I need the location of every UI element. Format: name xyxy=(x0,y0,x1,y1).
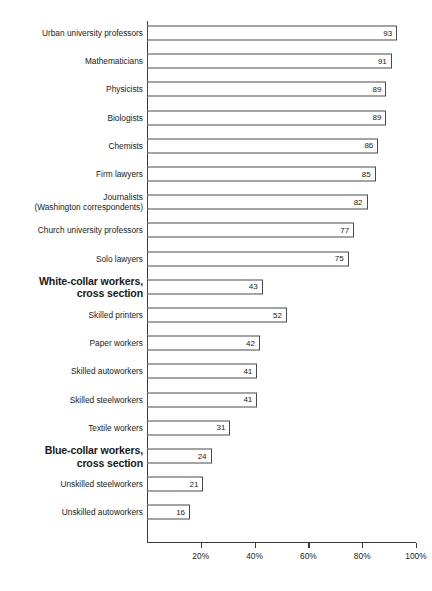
category-label-line1: Unskilled steelworkers xyxy=(60,479,143,489)
bar-row: Chemists86 xyxy=(0,137,432,154)
bar: 75 xyxy=(147,251,349,266)
bar-row: Firm lawyers85 xyxy=(0,166,432,183)
bar: 42 xyxy=(147,336,260,351)
bar: 24 xyxy=(147,449,212,464)
category-label-line1: Blue-collar workers, xyxy=(45,444,143,456)
bar: 86 xyxy=(147,138,378,153)
bar: 89 xyxy=(147,110,386,125)
bar: 91 xyxy=(147,54,392,69)
category-label: Urban university professors xyxy=(42,28,147,38)
category-label: Unskilled autoworkers xyxy=(62,507,147,517)
bar-row: Textile workers31 xyxy=(0,419,432,436)
category-label: Physicists xyxy=(106,84,147,94)
category-label: Mathematicians xyxy=(85,56,147,66)
category-label: Solo lawyers xyxy=(96,254,147,264)
bar-value-label: 16 xyxy=(176,508,185,517)
x-axis-line xyxy=(147,542,416,543)
bar-value-label: 89 xyxy=(373,113,382,122)
bar: 21 xyxy=(147,477,203,492)
x-tick-label: 100% xyxy=(405,551,427,561)
bar-value-label: 52 xyxy=(273,311,282,320)
category-label-line2: cross section xyxy=(39,287,143,300)
bar: 85 xyxy=(147,167,376,182)
bar: 41 xyxy=(147,364,257,379)
x-tick-mark xyxy=(308,543,309,548)
category-label: Unskilled steelworkers xyxy=(60,479,147,489)
category-label-line1: Paper workers xyxy=(90,338,144,348)
category-label-line1: Biologists xyxy=(107,113,143,123)
category-label-line1: Journalists xyxy=(103,192,143,202)
category-label: White-collar workers,cross section xyxy=(39,274,147,299)
bar-value-label: 82 xyxy=(354,198,363,207)
category-label-line1: Urban university professors xyxy=(42,28,143,38)
bar-value-label: 42 xyxy=(246,339,255,348)
category-label: Chemists xyxy=(108,141,147,151)
bar: 77 xyxy=(147,223,354,238)
category-label-line1: Skilled autoworkers xyxy=(71,366,143,376)
bar-row: White-collar workers,cross section43 xyxy=(0,278,432,295)
bar-value-label: 24 xyxy=(198,452,207,461)
x-tick-mark xyxy=(416,543,417,548)
x-tick-label: 40% xyxy=(246,551,263,561)
bar-row: Church university professors77 xyxy=(0,222,432,239)
bar-value-label: 93 xyxy=(383,29,392,38)
category-label-line2: (Washington correspondents) xyxy=(34,202,143,212)
bar-row: Mathematicians91 xyxy=(0,53,432,70)
bar-row: Blue-collar workers,cross section24 xyxy=(0,448,432,465)
bar: 82 xyxy=(147,195,368,210)
category-label: Biologists xyxy=(107,113,147,123)
bar-value-label: 31 xyxy=(216,423,225,432)
category-label: Skilled autoworkers xyxy=(71,366,147,376)
bar-row: Unskilled autoworkers16 xyxy=(0,504,432,521)
category-label-line1: White-collar workers, xyxy=(39,274,143,286)
bar-row: Journalists(Washington correspondents)82 xyxy=(0,194,432,211)
category-label-line1: Physicists xyxy=(106,84,143,94)
category-label-line2: cross section xyxy=(45,456,143,469)
bar-value-label: 75 xyxy=(335,254,344,263)
x-tick-label: 80% xyxy=(354,551,371,561)
bar-value-label: 91 xyxy=(378,57,387,66)
category-label-line1: Skilled printers xyxy=(89,310,143,320)
bar-row: Paper workers42 xyxy=(0,335,432,352)
category-label: Skilled steelworkers xyxy=(70,395,147,405)
category-label-line1: Chemists xyxy=(108,141,143,151)
bar-value-label: 43 xyxy=(249,282,258,291)
bar: 16 xyxy=(147,505,190,520)
category-label-line1: Textile workers xyxy=(88,423,143,433)
plot-area: 20%40%60%80%100% Urban university profes… xyxy=(0,0,432,591)
x-tick-mark xyxy=(255,543,256,548)
bar: 43 xyxy=(147,279,263,294)
x-tick-mark xyxy=(201,543,202,548)
category-label: Blue-collar workers,cross section xyxy=(45,444,147,469)
x-tick-label: 20% xyxy=(192,551,209,561)
bar-value-label: 85 xyxy=(362,170,371,179)
category-label-line1: Firm lawyers xyxy=(96,169,143,179)
bar-value-label: 41 xyxy=(243,367,252,376)
bar-value-label: 21 xyxy=(190,480,199,489)
x-tick-label: 60% xyxy=(300,551,317,561)
category-label-line1: Skilled steelworkers xyxy=(70,395,143,405)
category-label-line1: Solo lawyers xyxy=(96,254,143,264)
category-label: Church university professors xyxy=(38,225,147,235)
bar-row: Skilled printers52 xyxy=(0,307,432,324)
category-label: Skilled printers xyxy=(89,310,147,320)
bar-row: Unskilled steelworkers21 xyxy=(0,476,432,493)
category-label: Paper workers xyxy=(90,338,148,348)
bar-row: Biologists89 xyxy=(0,109,432,126)
category-label-line1: Mathematicians xyxy=(85,56,143,66)
bar: 31 xyxy=(147,420,230,435)
bar-row: Skilled steelworkers41 xyxy=(0,391,432,408)
x-tick-mark xyxy=(362,543,363,548)
category-label: Textile workers xyxy=(88,423,147,433)
bar: 41 xyxy=(147,392,257,407)
bar-value-label: 41 xyxy=(243,395,252,404)
bar-row: Physicists89 xyxy=(0,81,432,98)
bar: 89 xyxy=(147,82,386,97)
bar-row: Solo lawyers75 xyxy=(0,250,432,267)
category-label: Firm lawyers xyxy=(96,169,147,179)
bar-chart: 20%40%60%80%100% Urban university profes… xyxy=(0,0,432,591)
bar-row: Skilled autoworkers41 xyxy=(0,363,432,380)
bar: 52 xyxy=(147,308,287,323)
bar-value-label: 77 xyxy=(340,226,349,235)
bar: 93 xyxy=(147,26,397,41)
